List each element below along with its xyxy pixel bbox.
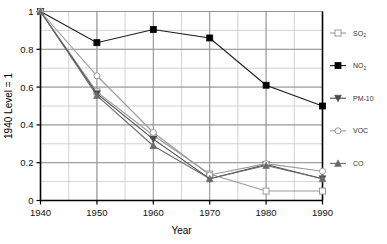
legend-label: CO (353, 160, 364, 167)
legend-label: PM-10 (353, 95, 374, 102)
legend-label: VOC (353, 127, 368, 134)
legend-item-co[interactable]: CO (330, 160, 364, 167)
y-tick-label: 0.6 (20, 82, 33, 93)
legend-marker (335, 30, 341, 36)
data-point-marker (207, 35, 213, 41)
data-point-marker (320, 168, 326, 174)
y-axis-ticks: 00.20.40.60.81 (20, 6, 40, 206)
data-point-marker (263, 82, 269, 88)
chart-container: 00.20.40.60.81194019501960197019801990Ye… (0, 0, 387, 244)
x-tick-label: 1980 (256, 207, 277, 218)
x-tick-label: 1970 (199, 207, 220, 218)
legend-item-so2[interactable]: SO2 (330, 30, 366, 39)
x-axis-ticks: 194019501960197019801990 (30, 201, 333, 218)
data-point-marker (320, 103, 326, 109)
data-point-marker (320, 188, 326, 194)
legend-item-no2[interactable]: NO2 (330, 62, 367, 71)
data-point-marker (94, 40, 100, 46)
legend-label-subscript: 2 (364, 65, 367, 71)
line-chart: 00.20.40.60.81194019501960197019801990Ye… (0, 0, 387, 244)
legend-item-voc[interactable]: VOC (330, 127, 368, 134)
legend-item-pm-10[interactable]: PM-10 (330, 95, 374, 102)
x-tick-label: 1950 (86, 207, 107, 218)
x-tick-label: 1940 (30, 207, 51, 218)
legend-marker (335, 128, 341, 134)
y-tick-label: 0.8 (20, 44, 33, 55)
data-point-marker (150, 26, 156, 32)
x-axis-title: Year (171, 225, 192, 236)
data-point-marker (150, 129, 156, 135)
data-point-marker (94, 73, 100, 79)
y-tick-label: 0.4 (20, 119, 33, 130)
legend-marker (335, 63, 341, 69)
y-tick-label: 0 (28, 195, 33, 206)
x-tick-label: 1960 (143, 207, 164, 218)
y-tick-label: 0.2 (20, 157, 33, 168)
legend: SO2NO2PM-10VOCCO (330, 30, 374, 167)
legend-label: NO2 (353, 62, 367, 71)
x-tick-label: 1990 (312, 207, 333, 218)
legend-label-subscript: 2 (363, 32, 366, 38)
y-axis-title: 1940 Level = 1 (3, 73, 14, 139)
y-tick-label: 1 (28, 6, 33, 17)
data-point-marker (263, 188, 269, 194)
legend-label: SO2 (353, 30, 366, 39)
